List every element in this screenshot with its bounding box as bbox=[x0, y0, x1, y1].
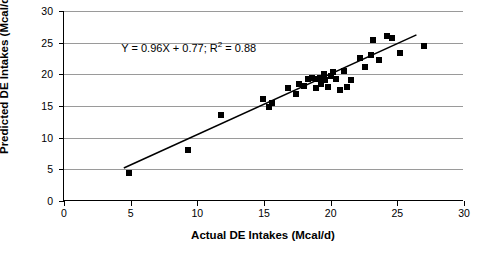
data-point bbox=[218, 112, 224, 118]
data-point bbox=[330, 69, 336, 75]
data-point bbox=[348, 77, 354, 83]
y-tick-label: 15 bbox=[31, 101, 53, 111]
data-point bbox=[357, 55, 363, 61]
y-tick-label: 10 bbox=[31, 133, 53, 143]
x-tick-mark bbox=[331, 201, 332, 206]
data-point bbox=[269, 100, 275, 106]
annotation-after: = 0.88 bbox=[222, 42, 256, 54]
data-point bbox=[370, 37, 376, 43]
data-point bbox=[126, 170, 132, 176]
data-point bbox=[344, 84, 350, 90]
regression-annotation: Y = 0.96X + 0.77; R2 = 0.88 bbox=[121, 40, 256, 54]
data-point bbox=[285, 85, 291, 91]
annotation-before: Y = 0.96X + 0.77; R bbox=[121, 42, 217, 54]
x-tick-mark bbox=[397, 201, 398, 206]
x-tick-mark bbox=[131, 201, 132, 206]
data-point bbox=[341, 68, 347, 74]
y-tick-label: 20 bbox=[31, 69, 53, 79]
data-point bbox=[321, 71, 327, 77]
y-tick-label: 25 bbox=[31, 38, 53, 48]
y-axis-title: Predicted DE Intakes (Mcal/d) bbox=[0, 0, 14, 200]
data-point bbox=[368, 52, 374, 58]
x-tick-mark bbox=[197, 201, 198, 206]
x-tick-mark bbox=[264, 201, 265, 206]
data-point bbox=[293, 91, 299, 97]
x-tick-label: 0 bbox=[52, 208, 76, 219]
x-tick-label: 30 bbox=[452, 208, 476, 219]
x-tick-label: 25 bbox=[385, 208, 409, 219]
x-axis-title: Actual DE Intakes (Mcal/d) bbox=[63, 229, 463, 241]
x-tick-label: 5 bbox=[119, 208, 143, 219]
data-point bbox=[376, 57, 382, 63]
data-point bbox=[362, 64, 368, 70]
data-point bbox=[421, 43, 427, 49]
data-point bbox=[185, 147, 191, 153]
x-tick-label: 15 bbox=[252, 208, 276, 219]
plot-area: 051015202530 051015202530 Y = 0.96X + 0.… bbox=[63, 11, 463, 201]
y-tick-label: 5 bbox=[31, 164, 53, 174]
x-tick-mark bbox=[464, 201, 465, 206]
x-tick-mark bbox=[64, 201, 65, 206]
x-tick-label: 10 bbox=[185, 208, 209, 219]
y-tick-label: 0 bbox=[31, 196, 53, 206]
data-point bbox=[260, 96, 266, 102]
x-tick-label: 20 bbox=[319, 208, 343, 219]
data-point bbox=[397, 50, 403, 56]
data-point bbox=[301, 83, 307, 89]
data-point bbox=[389, 35, 395, 41]
scatter-chart: Predicted DE Intakes (Mcal/d) Actual DE … bbox=[0, 0, 491, 253]
data-point bbox=[337, 87, 343, 93]
y-tick-label: 30 bbox=[31, 6, 53, 16]
data-point bbox=[333, 76, 339, 82]
data-point bbox=[325, 84, 331, 90]
